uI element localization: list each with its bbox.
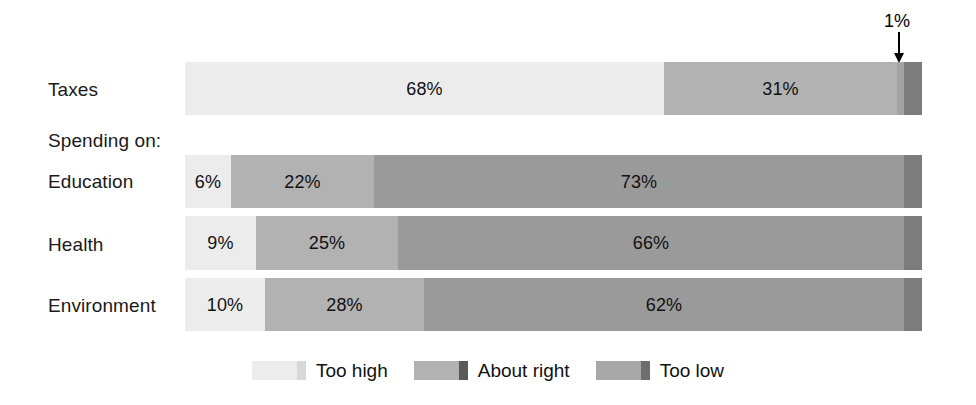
legend-label-about-right: About right (478, 361, 570, 380)
segment-environment-too-low: 62% (424, 278, 904, 331)
row-label-environment: Environment (48, 296, 156, 315)
segment-label-taxes-too-high: 68% (406, 80, 443, 98)
group-heading-spending-on: Spending on: (48, 131, 161, 150)
stacked-bar-chart: 1% Taxes 68% 31% Spending on: Education … (0, 0, 976, 405)
segment-label-education-too-low: 73% (621, 173, 658, 191)
arrow-down-icon (887, 32, 911, 64)
segment-taxes-dark-end (904, 62, 922, 115)
segment-health-dark-end (904, 216, 922, 270)
segment-taxes-about-right: 31% (664, 62, 897, 115)
segment-environment-too-high: 10% (185, 278, 265, 331)
segment-education-too-high: 6% (185, 155, 231, 208)
segment-environment-about-right: 28% (265, 278, 424, 331)
bar-environment: 10% 28% 62% (185, 278, 922, 331)
segment-health-too-high: 9% (185, 216, 256, 270)
legend-label-too-high: Too high (316, 361, 388, 380)
chart-legend: Too high About right Too low (0, 354, 976, 386)
row-label-health: Health (48, 235, 104, 254)
legend-item-about-right: About right (414, 361, 570, 380)
segment-education-about-right: 22% (231, 155, 374, 208)
legend-swatch-about-right (414, 361, 468, 380)
segment-label-environment-too-high: 10% (207, 296, 244, 314)
one-percent-callout: 1% (872, 12, 942, 62)
segment-label-environment-about-right: 28% (326, 296, 363, 314)
segment-label-taxes-about-right: 31% (762, 80, 799, 98)
segment-environment-dark-end (904, 278, 922, 331)
segment-education-too-low: 73% (374, 155, 904, 208)
one-percent-callout-label: 1% (884, 12, 910, 30)
segment-education-dark-end (904, 155, 922, 208)
legend-swatch-too-high (252, 361, 306, 380)
segment-label-education-about-right: 22% (284, 173, 321, 191)
bar-education: 6% 22% 73% (185, 155, 922, 208)
legend-swatch-too-low (596, 361, 650, 380)
row-label-taxes: Taxes (48, 80, 98, 99)
bar-health: 9% 25% 66% (185, 216, 922, 270)
segment-label-environment-too-low: 62% (646, 296, 683, 314)
segment-health-too-low: 66% (398, 216, 904, 270)
row-label-education: Education (48, 172, 133, 191)
segment-label-health-too-low: 66% (633, 234, 670, 252)
legend-label-too-low: Too low (660, 361, 724, 380)
legend-item-too-high: Too high (252, 361, 388, 380)
bar-taxes: 68% 31% (185, 62, 922, 115)
segment-taxes-too-low (897, 62, 904, 115)
legend-item-too-low: Too low (596, 361, 724, 380)
segment-label-health-too-high: 9% (207, 234, 233, 252)
segment-taxes-too-high: 68% (185, 62, 664, 115)
segment-health-about-right: 25% (256, 216, 398, 270)
segment-label-health-about-right: 25% (309, 234, 346, 252)
segment-label-education-too-high: 6% (195, 173, 221, 191)
